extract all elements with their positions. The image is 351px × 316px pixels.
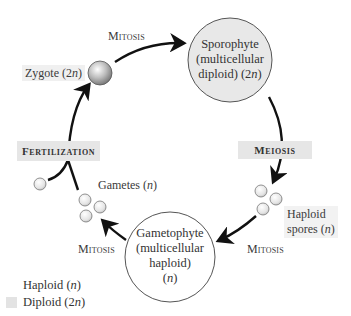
fertilization-branch-left bbox=[48, 160, 68, 180]
meiosis-box: Meiosis bbox=[238, 141, 312, 159]
legend-item-haploid: Haploid (n) bbox=[6, 278, 81, 293]
sporophyte-label: Sporophyte (multicellular diploid) (2n) bbox=[190, 37, 270, 82]
gametes-label: Gametes (n) bbox=[98, 178, 157, 192]
spore-cell bbox=[255, 185, 267, 197]
zygote-sphere bbox=[88, 61, 112, 85]
zygote-label: Zygote (2n) bbox=[22, 66, 85, 80]
mitosis-label-top: Mitosis bbox=[108, 29, 145, 43]
fertilization-branch-right bbox=[68, 160, 78, 190]
diploid-swatch bbox=[6, 297, 17, 308]
fertilization-box: Fertilization bbox=[17, 141, 100, 161]
arrow-mitosis-left bbox=[104, 222, 126, 240]
arrow-meiosis bbox=[269, 97, 282, 180]
gamete-cell bbox=[80, 210, 92, 222]
gamete-cell bbox=[94, 201, 106, 213]
gamete-cell bbox=[34, 178, 46, 190]
spore-cell bbox=[270, 193, 282, 205]
haploid-swatch bbox=[6, 280, 17, 291]
spores-label: Haploid spores (n) bbox=[284, 206, 338, 238]
arrow-mitosis-right bbox=[220, 216, 256, 240]
spore-cell bbox=[257, 203, 269, 215]
gamete-cell bbox=[79, 194, 91, 206]
gametophyte-label: Gametophyte (multicellular haploid) (n) bbox=[128, 226, 212, 286]
legend-item-diploid: Diploid (2n) bbox=[6, 295, 85, 310]
mitosis-label-left: Mitosis bbox=[78, 242, 115, 256]
mitosis-label-right: Mitosis bbox=[247, 242, 284, 256]
arrow-mitosis-top bbox=[115, 43, 182, 62]
